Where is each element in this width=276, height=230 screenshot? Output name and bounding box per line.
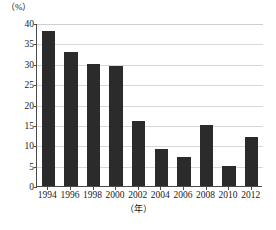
bar-slot: [177, 24, 191, 186]
x-axis-tick-mark: [206, 187, 207, 190]
bar: [64, 52, 78, 186]
bar: [200, 125, 214, 186]
bar: [177, 157, 191, 186]
x-axis-unit-label: （年）: [0, 204, 276, 215]
bar: [109, 66, 123, 186]
y-axis-tick-mark: [34, 167, 37, 168]
bar-slot: [109, 24, 123, 186]
y-axis-tick-mark: [34, 146, 37, 147]
bar-slot: [132, 24, 146, 186]
bar-slot: [42, 24, 56, 186]
y-axis-tick-label: 20: [8, 101, 34, 111]
y-axis-tick-mark: [34, 65, 37, 66]
bar: [42, 31, 56, 186]
y-axis-tick-mark: [34, 44, 37, 45]
y-axis-unit-label: （%）: [6, 2, 32, 13]
x-axis-tick-mark: [251, 187, 252, 190]
y-axis-tick-mark: [34, 85, 37, 86]
bar: [245, 137, 259, 186]
y-axis-tick-label: 40: [8, 19, 34, 29]
x-axis-tick-mark: [93, 187, 94, 190]
y-axis-tick-mark: [34, 24, 37, 25]
x-axis-tick-mark: [47, 187, 48, 190]
x-axis-tick-mark: [160, 187, 161, 190]
bar: [132, 121, 146, 186]
y-axis-tick-mark: [34, 126, 37, 127]
bar-slot: [245, 24, 259, 186]
x-axis-tick-label: 2012: [239, 190, 262, 201]
x-axis-tick-mark: [228, 187, 229, 190]
bar: [155, 149, 169, 186]
x-axis-tick-label: 1994: [36, 190, 59, 201]
x-axis-tick-label: 2008: [194, 190, 217, 201]
y-axis-tick-mark: [34, 106, 37, 107]
y-axis-tick-label: 15: [8, 121, 34, 131]
x-axis-tick-label: 2004: [149, 190, 172, 201]
x-axis-tick-label: 2010: [217, 190, 240, 201]
y-axis-tick-label: 5: [8, 162, 34, 172]
x-axis-tick-mark: [183, 187, 184, 190]
x-axis-tick-label: 2000: [104, 190, 127, 201]
y-axis-tick-label: 25: [8, 80, 34, 90]
bar-slot: [200, 24, 214, 186]
x-axis-tick-label: 2006: [172, 190, 195, 201]
bar-slot: [64, 24, 78, 186]
bar-chart: （%） 0510152025303540 1994199619982000200…: [0, 0, 276, 230]
y-axis-tick-mark: [34, 187, 37, 188]
bar-slot: [155, 24, 169, 186]
y-axis-tick-label: 10: [8, 141, 34, 151]
x-axis-tick-label: 1998: [81, 190, 104, 201]
y-axis-tick-label: 30: [8, 60, 34, 70]
bar: [87, 64, 101, 186]
bar-slot: [87, 24, 101, 186]
bar: [222, 166, 236, 186]
y-axis-tick-label: 0: [8, 182, 34, 192]
bar-slot: [222, 24, 236, 186]
x-axis-tick-label: 1996: [59, 190, 82, 201]
bar-series: [37, 24, 262, 186]
y-axis-tick-label: 35: [8, 39, 34, 49]
x-axis-tick-label: 2002: [126, 190, 149, 201]
x-axis-tick-mark: [70, 187, 71, 190]
x-axis-tick-mark: [138, 187, 139, 190]
x-axis-tick-mark: [115, 187, 116, 190]
plot-area: [36, 24, 262, 187]
